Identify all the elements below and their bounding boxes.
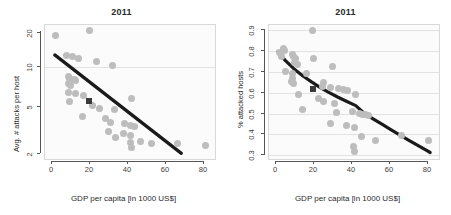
scatter-point [365,112,372,119]
y-tick-label-left-10: 10 [25,59,34,77]
scatter-point [425,137,432,144]
scatter-point [65,89,72,96]
figure-two-panel-scatter: 2011 Avg. # attacks per host 20 10 5 2 0… [0,0,451,215]
x-tick-label-left-40: 40 [115,165,139,174]
chart-title-right: 2011 [226,7,451,17]
scatter-point [72,90,79,97]
scatter-point [127,132,134,139]
scatter-point [67,82,74,89]
scatter-point [66,98,73,105]
scatter-point [351,124,358,131]
y-axis-label-right: % attacked hosts [236,71,245,128]
x-axis-label-left: GDP per capita [in 1000 US$] [0,194,225,203]
scatter-point [329,63,336,70]
scatter-point [299,106,306,113]
scatter-point [372,137,379,144]
y-axis-line-left [40,31,41,153]
scatter-point [282,68,289,75]
scatter-point [331,100,338,107]
scatter-point [148,140,155,147]
x-tick-label-left-80: 80 [191,165,215,174]
scatter-point [333,109,340,116]
x-tickmark-right-80 [427,161,428,164]
gridline-right-0-4 [269,134,439,135]
scatter-point [52,32,59,39]
x-tickmark-left-20 [89,161,90,164]
y-tick-label-left-20: 20 [25,25,34,43]
scatter-point [174,140,181,147]
x-tickmark-right-40 [351,161,352,164]
scatter-point [105,128,112,135]
x-tick-label-left-20: 20 [77,165,101,174]
scatter-point [319,83,326,90]
y-tickmark-right-0-5 [261,113,264,114]
scatter-point [327,84,334,91]
gridline-left-10 [45,67,215,68]
x-tick-label-right-60: 60 [377,165,401,174]
scatter-point [128,144,135,151]
x-tick-label-right-20: 20 [301,165,325,174]
scatter-point [202,142,209,149]
highlight-marker [86,98,92,104]
scatter-point [358,133,365,140]
scatter-point [86,27,93,34]
x-tick-label-right-80: 80 [415,165,439,174]
y-tickmark-left-2 [37,153,40,154]
scatter-point [131,123,138,130]
scatter-point [398,132,405,139]
scatter-point [327,120,334,127]
highlight-marker [310,86,316,92]
scatter-point [109,62,116,69]
scatter-point [310,55,317,62]
y-tickmark-left-10 [37,66,40,67]
y-tick-label-left-5: 5 [25,99,34,117]
scatter-point [137,138,144,145]
scatter-point [290,80,297,87]
panel-avg-attacks-per-host: 2011 Avg. # attacks per host 20 10 5 2 0… [0,0,225,215]
scatter-point [93,58,100,65]
scatter-point [111,106,118,113]
x-tick-label-right-0: 0 [263,165,287,174]
scatter-point [349,108,356,115]
y-tickmark-left-20 [37,32,40,33]
scatter-point [278,53,285,60]
y-tickmark-right-0-3 [261,154,264,155]
scatter-point [352,91,359,98]
scatter-point [120,130,127,137]
scatter-point [107,119,114,126]
y-axis-label-left: Avg. # attacks per host [12,76,21,152]
x-tick-label-left-0: 0 [39,165,63,174]
x-tick-label-left-60: 60 [153,165,177,174]
x-tickmark-left-0 [51,161,52,164]
y-axis-line-right [264,29,265,155]
x-tickmark-left-40 [127,161,128,164]
y-tick-label-left-2: 2 [25,146,34,164]
scatter-point [295,91,302,98]
x-axis-label-right: GDP per capita [in 1000 US$] [226,194,451,203]
plot-area-left [44,24,216,160]
scatter-point [128,95,135,102]
x-tickmark-left-80 [203,161,204,164]
x-tick-label-right-40: 40 [339,165,363,174]
scatter-point [320,98,327,105]
scatter-point [75,55,82,62]
x-tickmark-right-60 [389,161,390,164]
scatter-point [112,134,119,141]
x-tickmark-right-0 [275,161,276,164]
scatter-point [79,113,86,120]
scatter-point [343,122,350,129]
scatter-point [309,27,316,34]
chart-title-left: 2011 [0,7,225,17]
scatter-point [96,105,103,112]
y-tick-label-right-0-3: 0.3 [247,144,256,168]
plot-area-right [268,24,440,160]
scatter-point [294,61,301,68]
x-tickmark-left-60 [165,161,166,164]
y-tickmark-right-0-4 [261,133,264,134]
scatter-point [303,70,310,77]
y-tickmark-right-0-7 [261,71,264,72]
panel-percent-attacked-hosts: 2011 % attacked hosts 0.9 0.8 0.7 0.6 0.… [226,0,451,215]
y-tickmark-left-5 [37,106,40,107]
scatter-point [351,148,358,155]
gridline-right-0-3 [269,155,439,156]
